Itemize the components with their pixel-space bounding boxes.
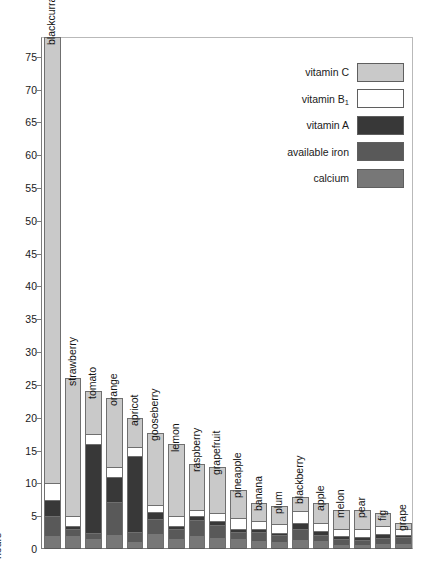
segment-calcium (395, 544, 412, 549)
segment-vitamin-b1 (333, 529, 350, 536)
segment-vitamin-c (44, 37, 61, 483)
bar-label-strawberry: strawberry (66, 337, 78, 386)
bar-label-lemon: lemon (169, 423, 181, 452)
segment-available-iron (65, 529, 82, 536)
legend-swatch (357, 63, 404, 82)
segment-available-iron (251, 532, 268, 541)
bar-tomato (85, 391, 102, 549)
bar-label-apricot: apricot (128, 394, 140, 426)
segment-vitamin-a (44, 500, 61, 516)
segment-vitamin-b1 (85, 434, 102, 444)
legend-item-available-iron[interactable]: available iron (236, 143, 404, 161)
segment-calcium (127, 542, 144, 549)
segment-vitamin-a (189, 516, 206, 520)
segment-vitamin-b1 (65, 516, 82, 527)
legend-label: vitamin C (305, 66, 349, 78)
segment-vitamin-a (65, 526, 82, 529)
bar-gooseberry (147, 433, 164, 549)
bar-label-plum: plum (272, 492, 284, 515)
segment-calcium (189, 536, 206, 549)
segment-calcium (209, 538, 226, 549)
segment-vitamin-a (85, 444, 102, 533)
segment-vitamin-a (292, 523, 309, 530)
segment-available-iron (354, 540, 371, 545)
bar-label-orange: orange (107, 373, 119, 406)
y-axis-tick-label: 0 (31, 544, 37, 554)
segment-calcium (375, 544, 392, 549)
bar-label-melon: melon (334, 489, 346, 518)
bar-label-blackcurrant: blackcurrant (45, 0, 57, 45)
legend-item-calcium[interactable]: calcium (236, 169, 404, 187)
segment-vitamin-c (106, 398, 123, 467)
segment-available-iron (44, 516, 61, 536)
segment-vitamin-b1 (127, 447, 144, 456)
legend-label: calcium (313, 172, 349, 184)
segment-available-iron (147, 519, 164, 534)
segment-available-iron (189, 520, 206, 536)
segment-vitamin-b1 (106, 467, 123, 478)
segment-available-iron (85, 533, 102, 540)
segment-vitamin-a (147, 512, 164, 519)
bar-label-grapefruit: grapefruit (210, 431, 222, 475)
segment-vitamin-b1 (168, 516, 185, 526)
segment-vitamin-b1 (354, 529, 371, 536)
segment-available-iron (313, 535, 330, 542)
segment-vitamin-a (127, 456, 144, 532)
segment-available-iron (168, 529, 185, 540)
bar-orange (106, 398, 123, 549)
bar-label-pear: pear (355, 497, 367, 518)
segment-calcium (168, 539, 185, 549)
segment-vitamin-c (168, 444, 185, 516)
bar-label-apple: apple (314, 485, 326, 511)
segment-calcium (85, 539, 102, 549)
bar-label-fig: fig (376, 510, 388, 521)
segment-vitamin-a (354, 537, 371, 540)
segment-vitamin-b1 (313, 523, 330, 531)
bar-grapefruit (209, 467, 226, 549)
bar-label-gooseberry: gooseberry (148, 388, 160, 441)
segment-vitamin-b1 (375, 526, 392, 534)
segment-available-iron (271, 535, 288, 542)
segment-calcium (65, 536, 82, 549)
chart-legend: vitamin Cvitamin B1vitamin Aavailable ir… (236, 63, 404, 196)
segment-vitamin-a (209, 521, 226, 524)
segment-vitamin-a (168, 526, 185, 529)
segment-vitamin-c (65, 378, 82, 516)
segment-calcium (230, 539, 247, 549)
segment-calcium (147, 534, 164, 549)
segment-available-iron (292, 529, 309, 540)
bar-label-raspberry: raspberry (190, 427, 202, 471)
bar-label-blackberry: blackberry (293, 456, 305, 504)
segment-vitamin-a (230, 529, 247, 532)
legend-swatch (357, 142, 404, 161)
legend-label: vitamin B1 (302, 93, 349, 105)
bar-raspberry (189, 464, 206, 549)
segment-vitamin-b1 (230, 518, 247, 529)
bar-pineapple (230, 490, 247, 549)
legend-item-vitamin-c[interactable]: vitamin C (236, 63, 404, 81)
bar-apricot (127, 418, 144, 549)
segment-vitamin-b1 (189, 510, 206, 517)
y-axis: 051015202530354045505560657075hours (0, 0, 41, 580)
bar-blackcurrant (44, 37, 61, 549)
bar-label-pineapple: pineapple (231, 452, 243, 498)
segment-calcium (354, 545, 371, 549)
bar-label-grape: grape (396, 504, 408, 531)
segment-calcium (271, 542, 288, 549)
segment-available-iron (209, 525, 226, 538)
segment-calcium (333, 545, 350, 549)
bar-label-banana: banana (252, 476, 264, 511)
segment-vitamin-a (251, 529, 268, 532)
segment-vitamin-a (395, 535, 412, 538)
segment-vitamin-a (313, 531, 330, 535)
legend-label: available iron (287, 146, 349, 158)
y-axis-title: hours (0, 533, 3, 559)
legend-label: vitamin A (306, 119, 349, 131)
segment-vitamin-b1 (209, 513, 226, 522)
bar-strawberry (65, 378, 82, 549)
legend-label-subscript: 1 (345, 98, 349, 107)
legend-item-vitamin-a[interactable]: vitamin A (236, 116, 404, 134)
segment-available-iron (106, 502, 123, 535)
legend-item-vitamin-b[interactable]: vitamin B1 (236, 90, 404, 108)
segment-vitamin-b1 (147, 505, 164, 512)
